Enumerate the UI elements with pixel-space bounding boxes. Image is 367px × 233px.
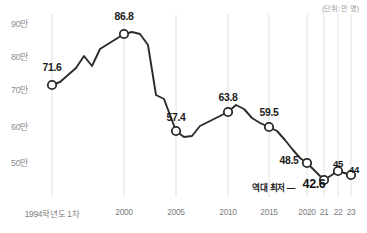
- line-chart: (단위: 만 명) 90만 80만 70만 60만 50만 1994학년도 1차…: [0, 0, 367, 233]
- gridlines: [52, 14, 351, 197]
- y-axis-tick-90: 90만: [11, 17, 28, 30]
- x-axis-tick-2010: 2010: [219, 207, 236, 217]
- x-axis-tick-21: 21: [320, 207, 329, 217]
- data-label-44: 44: [349, 164, 359, 175]
- data-label-63-8: 63.8: [218, 92, 237, 103]
- data-label-48-5: 48.5: [279, 155, 298, 166]
- data-markers: [48, 30, 355, 184]
- data-label-86-8: 86.8: [114, 11, 133, 22]
- data-label-42-6: 42.6: [303, 177, 326, 191]
- unit-note: (단위: 만 명): [322, 3, 359, 13]
- data-label-57-4: 57.4: [166, 112, 185, 123]
- y-axis-tick-70: 70만: [11, 83, 28, 96]
- x-axis-tick-23: 23: [347, 207, 356, 217]
- x-axis-tick-2020: 2020: [298, 207, 315, 217]
- y-axis-tick-60: 60만: [11, 120, 28, 133]
- y-axis-tick-50: 50만: [11, 156, 28, 169]
- x-axis-tick-22: 22: [334, 207, 343, 217]
- x-axis-tick-1994: 1994학년도 1차: [25, 207, 80, 219]
- data-label-71-6: 71.6: [42, 62, 61, 73]
- x-axis-tick-2015: 2015: [260, 207, 277, 217]
- data-label-59-5: 59.5: [259, 107, 278, 118]
- lowest-record-note: 역대 최저 —: [252, 181, 295, 193]
- x-axis-tick-2005: 2005: [167, 207, 184, 217]
- x-axis-tick-2000: 2000: [115, 207, 132, 217]
- data-line: [52, 32, 351, 180]
- y-axis-tick-80: 80만: [11, 50, 28, 63]
- data-label-45: 45: [333, 158, 343, 169]
